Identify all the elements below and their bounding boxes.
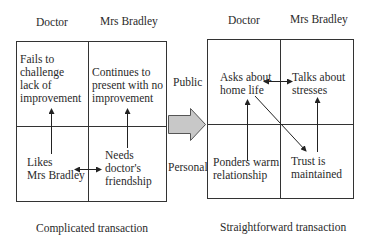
right-cell-personal-doctor: Ponders warm relationship bbox=[213, 156, 279, 182]
left-cell-personal-doctor: Likes Mrs Bradley bbox=[27, 156, 85, 182]
text-line: improvement bbox=[20, 92, 81, 105]
text-line: home life bbox=[220, 84, 271, 97]
text-line: present with no bbox=[92, 79, 163, 92]
text-line: stresses bbox=[292, 84, 345, 97]
text-line: relationship bbox=[213, 169, 279, 182]
text-line: Trust is bbox=[291, 155, 342, 168]
right-header-doctor: Doctor bbox=[228, 14, 260, 26]
left-caption: Complicated transaction bbox=[36, 222, 148, 234]
text-line: challenge bbox=[20, 66, 81, 79]
right-cell-personal-patient: Trust is maintained bbox=[291, 155, 342, 181]
right-cell-public-patient: Talks about stresses bbox=[292, 71, 345, 97]
text-line: improvement bbox=[92, 92, 163, 105]
text-line: maintained bbox=[291, 168, 342, 181]
transition-arrow-icon bbox=[169, 109, 206, 141]
diagram-lines bbox=[0, 0, 372, 236]
text-line: Likes bbox=[27, 156, 85, 169]
text-line: Ponders warm bbox=[213, 156, 279, 169]
text-line: Fails to bbox=[20, 53, 81, 66]
text-line: friendship bbox=[105, 175, 152, 188]
left-cell-public-doctor: Fails to challenge lack of improvement bbox=[20, 53, 81, 105]
text-line: doctor's bbox=[105, 162, 152, 175]
row-label-personal: Personal bbox=[168, 161, 208, 173]
right-caption: Straightforward transaction bbox=[220, 221, 346, 233]
row-label-public: Public bbox=[173, 76, 202, 88]
text-line: Talks about bbox=[292, 71, 345, 84]
left-header-patient: Mrs Bradley bbox=[100, 15, 158, 27]
text-line: Continues to bbox=[92, 66, 163, 79]
text-line: Asks about bbox=[220, 71, 271, 84]
text-line: lack of bbox=[20, 79, 81, 92]
right-cell-public-doctor: Asks about home life bbox=[220, 71, 271, 97]
left-cell-public-patient: Continues to present with no improvement bbox=[92, 66, 163, 105]
text-line: Mrs Bradley bbox=[27, 169, 85, 182]
text-line: Needs bbox=[105, 149, 152, 162]
left-header-doctor: Doctor bbox=[36, 16, 68, 28]
right-header-patient: Mrs Bradley bbox=[290, 13, 348, 25]
left-cell-personal-patient: Needs doctor's friendship bbox=[105, 149, 152, 188]
